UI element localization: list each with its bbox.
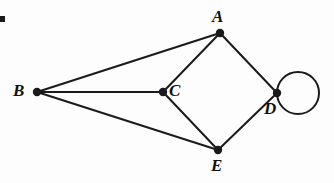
vertex-dot-e xyxy=(214,146,222,154)
vertex-label-b: B xyxy=(13,82,24,99)
vertex-label-e: E xyxy=(211,157,222,174)
vertex-dot-d xyxy=(273,89,281,97)
vertex-label-d: D xyxy=(264,100,276,117)
graph-canvas xyxy=(0,0,334,183)
edge-A-D xyxy=(220,33,277,93)
vertex-dot-c xyxy=(159,88,167,96)
vertex-dot-a xyxy=(216,29,224,37)
vertex-dot-b xyxy=(33,88,41,96)
vertex-label-c: C xyxy=(169,82,180,99)
graph-figure: ABCDE xyxy=(0,0,334,183)
vertex-label-a: A xyxy=(212,8,223,25)
edge-D-D-loop xyxy=(277,72,319,114)
